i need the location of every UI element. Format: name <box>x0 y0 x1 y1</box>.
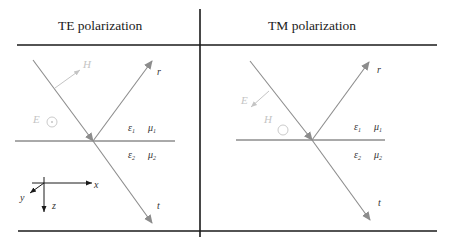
incident-ray <box>33 60 93 141</box>
reflected-label: r <box>377 64 381 75</box>
transmitted-label: t <box>157 200 160 211</box>
h-field-arrow <box>55 70 80 88</box>
e-field-label: E <box>240 94 248 106</box>
z-axis-label: z <box>51 200 56 211</box>
polarization-diagram: TE polarization TM polarization <box>0 0 452 246</box>
x-axis-label: x <box>93 179 99 190</box>
out-of-plane-symbol <box>278 125 288 135</box>
transmitted-ray <box>93 141 152 223</box>
medium1-epsilon: ε1 <box>354 121 361 133</box>
y-axis-label: y <box>19 192 25 203</box>
medium2-mu: μ2 <box>147 149 156 161</box>
incident-ray <box>250 61 312 140</box>
h-field-label: H <box>263 113 273 125</box>
e-field-arrow <box>251 91 269 107</box>
reflected-ray <box>93 61 152 141</box>
medium1-mu: μ1 <box>147 122 156 134</box>
reflected-label: r <box>157 66 161 77</box>
tm-panel: E H ε1 μ1 ε2 μ2 r t <box>236 61 385 220</box>
diagram-canvas: H E ε1 μ1 ε2 μ2 r t x y z <box>0 0 452 246</box>
medium2-epsilon: ε2 <box>128 149 135 161</box>
h-field-label: H <box>82 58 92 70</box>
coordinate-axes: x y z <box>19 177 99 212</box>
transmitted-label: t <box>378 197 381 208</box>
medium2-epsilon: ε2 <box>354 149 361 161</box>
transmitted-ray <box>312 140 370 220</box>
te-panel: H E ε1 μ1 ε2 μ2 r t x y z <box>15 58 175 223</box>
e-field-label: E <box>32 113 40 125</box>
y-axis <box>30 183 44 193</box>
medium1-mu: μ1 <box>373 121 382 133</box>
medium2-mu: μ2 <box>373 149 382 161</box>
medium1-epsilon: ε1 <box>128 122 135 134</box>
